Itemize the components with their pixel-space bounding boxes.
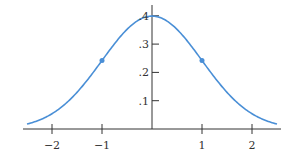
marked-point (100, 58, 105, 63)
y-tick-label: .2 (139, 66, 150, 79)
y-tick-labels: .1.2.3.4 (139, 10, 150, 108)
normal-distribution-chart: −2−112 .1.2.3.4 (0, 0, 302, 159)
x-tick-label: 1 (199, 139, 206, 152)
x-tick-label: −1 (94, 139, 110, 152)
y-tick-label: .3 (139, 38, 150, 51)
marked-point (200, 58, 205, 63)
chart-canvas: −2−112 .1.2.3.4 (0, 0, 302, 159)
axes (23, 5, 281, 134)
x-tick-label: 2 (249, 139, 256, 152)
x-tick-label: −2 (44, 139, 60, 152)
x-tick-labels: −2−112 (44, 139, 256, 152)
y-tick-label: .1 (139, 95, 150, 108)
y-tick-label: .4 (139, 10, 150, 23)
